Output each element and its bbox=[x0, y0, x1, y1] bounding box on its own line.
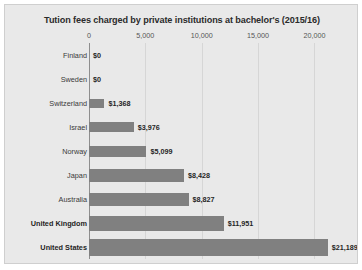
category-label: United States bbox=[40, 243, 87, 252]
bar-value-label: $0 bbox=[93, 75, 101, 84]
bar-value-label: $8,827 bbox=[193, 195, 215, 204]
x-tick-label: 20,000 bbox=[303, 31, 325, 40]
x-tick-label: 15,000 bbox=[247, 31, 269, 40]
bar-row: Finland$0 bbox=[5, 52, 358, 59]
bar bbox=[89, 122, 134, 132]
bar-value-label: $3,976 bbox=[138, 123, 160, 132]
bar-value-label: $0 bbox=[93, 51, 101, 60]
bar-row: Israel$3,976 bbox=[5, 122, 358, 132]
category-label: United Kingdom bbox=[31, 219, 87, 228]
category-label: Sweden bbox=[61, 75, 87, 84]
bar-row: Sweden$0 bbox=[5, 76, 358, 83]
x-tick-label: 5,000 bbox=[136, 31, 154, 40]
category-label: Australia bbox=[59, 195, 87, 204]
category-label: Switzerland bbox=[49, 99, 87, 108]
bar-row: United States$21,189 bbox=[5, 239, 358, 256]
bar bbox=[89, 239, 328, 256]
bar-row: Norway$5,099 bbox=[5, 146, 358, 157]
bar-row: Japan$8,428 bbox=[5, 169, 358, 182]
chart-title: Tution fees charged by private instituti… bbox=[5, 15, 358, 25]
bar-series: Finland$0Sweden$0Switzerland$1,368Israel… bbox=[5, 43, 358, 259]
chart-card: Tution fees charged by private instituti… bbox=[4, 4, 358, 264]
category-label: Israel bbox=[69, 123, 87, 132]
bar-value-label: $21,189 bbox=[332, 243, 358, 252]
bar bbox=[89, 193, 189, 206]
bar-value-label: $1,368 bbox=[108, 99, 130, 108]
bar bbox=[89, 99, 104, 108]
category-label: Finland bbox=[63, 51, 87, 60]
category-label: Norway bbox=[62, 147, 87, 156]
bar-row: Switzerland$1,368 bbox=[5, 99, 358, 108]
bar-value-label: $5,099 bbox=[150, 147, 172, 156]
x-axis-tick-labels: 05,00010,00015,00020,000 bbox=[5, 31, 358, 43]
bar-row: United Kingdom$11,951 bbox=[5, 216, 358, 231]
bar-value-label: $11,951 bbox=[228, 219, 254, 228]
bar-value-label: $8,428 bbox=[188, 171, 210, 180]
x-tick-label: 10,000 bbox=[191, 31, 213, 40]
bar bbox=[89, 216, 224, 231]
category-label: Japan bbox=[67, 171, 87, 180]
bar bbox=[89, 169, 184, 182]
bar-row: Australia$8,827 bbox=[5, 193, 358, 206]
bar bbox=[89, 146, 146, 157]
x-tick-label: 0 bbox=[87, 31, 91, 40]
